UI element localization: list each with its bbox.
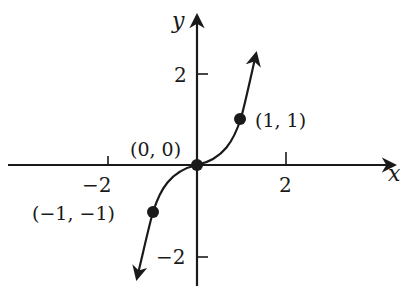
point-origin bbox=[191, 159, 203, 171]
x-tick-label-neg2: −2 bbox=[82, 173, 111, 197]
label-neg1-neg1: (−1, −1) bbox=[32, 202, 115, 224]
x-tick-label-2: 2 bbox=[279, 173, 292, 197]
label-origin: (0, 0) bbox=[130, 138, 181, 160]
y-axis-label: y bbox=[171, 8, 185, 33]
point-1-1 bbox=[234, 113, 246, 125]
label-1-1: (1, 1) bbox=[255, 109, 306, 131]
point-neg1-neg1 bbox=[147, 206, 159, 218]
cubic-graph: y x −2 2 2 −2 (0, 0) (1, 1) (−1, −1) bbox=[0, 0, 400, 291]
x-axis-label: x bbox=[388, 161, 400, 186]
y-tick-label-2: 2 bbox=[174, 63, 187, 87]
y-tick-label-neg2: −2 bbox=[156, 245, 185, 269]
